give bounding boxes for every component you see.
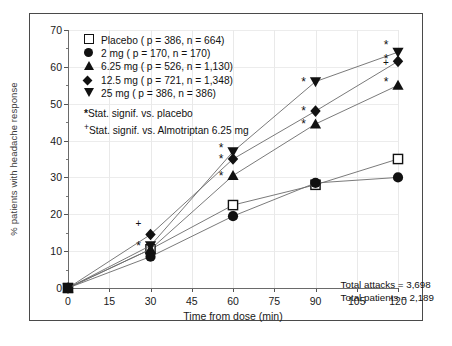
legend-label: 2 mg ( p = 170, n = 170) [101, 47, 210, 60]
significance-asterisk: * [219, 170, 224, 182]
significance-plus: + [383, 58, 389, 68]
legend-marker-filled-triangle-down-icon [84, 87, 101, 100]
data-point-filled-triangle-down [310, 77, 321, 87]
legend-marker-filled-diamond-icon [84, 74, 101, 87]
y-tick-label: 0 [56, 282, 62, 294]
y-tick-label: 40 [50, 135, 62, 147]
data-point-filled-triangle-up [227, 170, 238, 180]
x-tick-label: 0 [65, 295, 71, 307]
y-axis-label: % patients with headache response [8, 30, 22, 288]
legend-item-25-mg: 25 mg ( p = 386, n = 386) [84, 87, 249, 100]
x-tick-label: 45 [186, 295, 198, 307]
series-1 [63, 172, 403, 293]
legend-label: 6.25 mg ( p = 526, n = 1,130) [101, 60, 233, 73]
y-tick-label: 60 [50, 61, 62, 73]
significance-asterisk: * [136, 240, 141, 252]
significance-asterisk: * [384, 76, 389, 88]
legend-item-placebo: Placebo ( p = 386, n = 664) [84, 34, 249, 47]
significance-asterisk: * [301, 118, 306, 130]
x-axis-label: Time from dose (min) [68, 310, 398, 322]
data-point-filled-circle [228, 211, 238, 221]
legend-label: 12.5 mg ( p = 721, n = 1,348) [101, 74, 233, 87]
significance-asterisk: * [301, 105, 306, 117]
y-tick-label: 30 [50, 171, 62, 183]
legend: Placebo ( p = 386, n = 664)2 mg ( p = 17… [84, 34, 249, 138]
data-point-filled-diamond [310, 105, 320, 117]
legend-marker-open-square-icon [84, 34, 101, 47]
x-tick-label: 30 [145, 295, 157, 307]
legend-marker-filled-triangle-up-icon [84, 60, 101, 73]
significance-asterisk: * [384, 39, 389, 51]
series-line [68, 177, 398, 288]
chart-figure: % patients with headache response Time f… [0, 0, 452, 346]
legend-item-6-25-mg: 6.25 mg ( p = 526, n = 1,130) [84, 60, 249, 73]
y-tick-label: 20 [50, 208, 62, 220]
y-tick-label: 70 [50, 24, 62, 36]
note-almotriptan: +Stat. signif. vs. Almotriptan 6.25 mg [84, 121, 249, 138]
x-tick-label: 15 [103, 295, 115, 307]
total-attacks: Total attacks = 3,698 [341, 279, 434, 292]
x-tick-label: 90 [310, 295, 322, 307]
total-patients: Total patients = 2,189 [341, 292, 434, 305]
data-point-filled-diamond [145, 229, 155, 241]
data-point-filled-circle [310, 178, 320, 188]
data-point-open-square [393, 154, 402, 163]
y-tick-label: 10 [50, 245, 62, 257]
data-point-filled-triangle-up [310, 118, 321, 128]
data-point-open-square [228, 200, 237, 209]
legend-marker-filled-circle-icon [84, 47, 101, 60]
legend-label: Placebo ( p = 386, n = 664) [101, 34, 224, 47]
y-tick-label: 50 [50, 98, 62, 110]
legend-label: 25 mg ( p = 386, n = 386) [101, 87, 216, 100]
legend-item-2-mg: 2 mg ( p = 170, n = 170) [84, 47, 249, 60]
x-tick-label: 75 [268, 295, 280, 307]
legend-notes: *Stat. signif. vs. placebo +Stat. signif… [84, 108, 249, 138]
x-tick-label: 60 [227, 295, 239, 307]
significance-plus: + [136, 219, 142, 229]
data-point-filled-circle [393, 172, 403, 182]
note-placebo: *Stat. signif. vs. placebo [84, 108, 249, 121]
significance-asterisk: * [301, 76, 306, 88]
significance-asterisk: * [219, 153, 224, 165]
totals-annotation: Total attacks = 3,698 Total patients = 2… [341, 279, 434, 304]
legend-item-12-5-mg: 12.5 mg ( p = 721, n = 1,348) [84, 74, 249, 87]
